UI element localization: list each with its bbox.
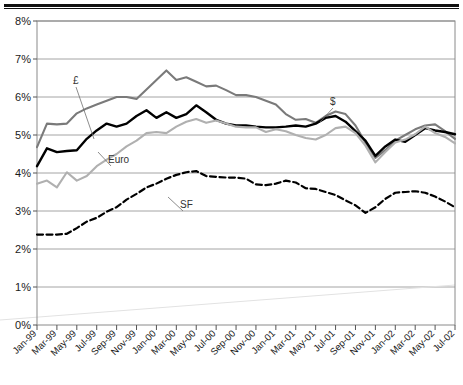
series-line (37, 171, 455, 234)
line-chart-svg: 0%1%2%3%4%5%6%7%8% Jan-99Mar-99May-99Jul… (0, 0, 463, 385)
series-line (37, 105, 455, 166)
series-annotation-label: $ (330, 96, 336, 107)
annotation-leader-line (320, 108, 333, 122)
y-axis-ticks: 0%1%2%3%4%5%6%7%8% (15, 15, 37, 331)
y-axis-tick-label: 8% (15, 15, 31, 27)
baseline-hairline (0, 285, 455, 320)
gridlines (0, 21, 455, 320)
series-annotation-label: £ (73, 75, 79, 86)
series-annotations: £EuroSF$ (73, 75, 336, 211)
y-axis-tick-label: 2% (15, 243, 31, 255)
series-annotation-label: SF (180, 199, 193, 210)
x-axis-ticks: Jan-99Mar-99May-99Jul-99Sep-99Nov-99Jan-… (10, 325, 456, 358)
chart-container: 0%1%2%3%4%5%6%7%8% Jan-99Mar-99May-99Jul… (0, 0, 463, 385)
y-axis-tick-label: 1% (15, 281, 31, 293)
y-axis-tick-label: 5% (15, 129, 31, 141)
series-annotation-label: Euro (108, 154, 130, 165)
x-axis-tick-label: Jul-02 (430, 328, 456, 354)
y-axis-tick-label: 7% (15, 53, 31, 65)
y-axis-tick-label: 6% (15, 91, 31, 103)
series-lines (37, 70, 455, 234)
y-axis-tick-label: 3% (15, 205, 31, 217)
y-axis-tick-label: 4% (15, 167, 31, 179)
